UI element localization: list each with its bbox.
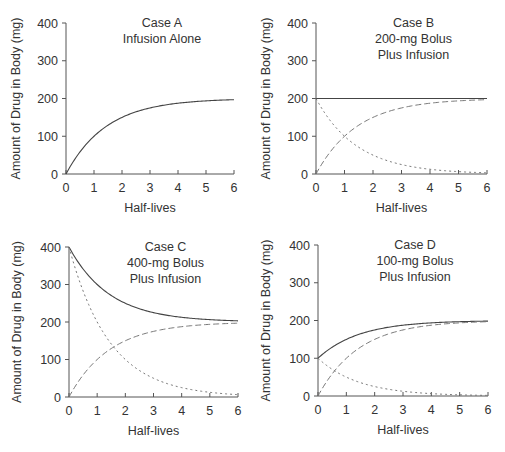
- y-tick-label: 300: [37, 54, 58, 68]
- x-tick-label: 6: [235, 404, 242, 418]
- y-axis-title: Amount of Drug in Body (mg): [259, 18, 273, 180]
- y-axis-title: Amount of Drug in Body (mg): [10, 241, 24, 403]
- total-curve: [66, 100, 234, 174]
- x-tick-label: 2: [370, 181, 377, 195]
- chart-panel-case-a: 01234560100200300400Half-livesAmount of …: [9, 16, 238, 215]
- panel-subtitle: 400-mg Bolus: [127, 256, 204, 270]
- x-tick-label: 1: [343, 403, 350, 417]
- x-axis-title: Half-lives: [377, 423, 428, 437]
- x-tick-label: 3: [400, 403, 407, 417]
- y-tick-label: 100: [287, 130, 308, 144]
- y-tick-label: 0: [303, 390, 310, 404]
- panel-title: Case B: [393, 16, 434, 30]
- x-tick-label: 5: [203, 181, 210, 195]
- x-tick-label: 1: [91, 181, 98, 195]
- pharmacokinetics-figure: 01234560100200300400Half-livesAmount of …: [0, 0, 505, 452]
- y-tick-label: 200: [289, 314, 310, 328]
- x-tick-label: 3: [398, 181, 405, 195]
- y-tick-label: 100: [289, 352, 310, 366]
- x-tick-label: 0: [315, 403, 322, 417]
- x-tick-label: 3: [147, 181, 154, 195]
- x-tick-label: 6: [484, 181, 491, 195]
- y-tick-label: 300: [289, 276, 310, 290]
- x-tick-label: 4: [175, 181, 182, 195]
- x-tick-label: 2: [122, 404, 129, 418]
- y-tick-label: 400: [40, 241, 61, 255]
- infusion-curve: [318, 322, 488, 396]
- y-tick-label: 100: [40, 353, 61, 367]
- panel-subtitle: Plus Infusion: [378, 48, 450, 62]
- chart-panel-case-c: 01234560100200300400Half-livesAmount of …: [10, 240, 242, 438]
- x-axis-title: Half-lives: [128, 424, 179, 438]
- panel-subtitle: 200-mg Bolus: [375, 32, 452, 46]
- x-tick-label: 5: [206, 404, 213, 418]
- infusion-curve: [69, 323, 238, 397]
- x-tick-label: 5: [455, 181, 462, 195]
- chart-panel-case-d: 01234560100200300400Half-livesAmount of …: [259, 238, 492, 437]
- panel-title: Case C: [145, 240, 187, 254]
- y-tick-label: 400: [37, 17, 58, 31]
- panel-subtitle: Plus Infusion: [379, 270, 451, 284]
- panel-subtitle: 100-mg Bolus: [376, 254, 453, 268]
- x-tick-label: 1: [341, 181, 348, 195]
- y-tick-label: 200: [37, 92, 58, 106]
- x-axis-title: Half-lives: [376, 201, 427, 215]
- x-tick-label: 0: [66, 404, 73, 418]
- panel-title: Case A: [142, 16, 183, 30]
- x-tick-label: 6: [231, 181, 238, 195]
- x-tick-label: 6: [485, 403, 492, 417]
- x-tick-label: 3: [150, 404, 157, 418]
- y-tick-label: 0: [51, 168, 58, 182]
- panel-subtitle: Plus Infusion: [130, 272, 202, 286]
- y-tick-label: 100: [37, 130, 58, 144]
- panel-title: Case D: [394, 238, 436, 252]
- bolus-curve: [316, 99, 487, 173]
- y-tick-label: 400: [287, 17, 308, 31]
- x-tick-label: 4: [178, 404, 185, 418]
- y-axis-title: Amount of Drug in Body (mg): [259, 240, 273, 402]
- x-tick-label: 2: [371, 403, 378, 417]
- x-tick-label: 0: [313, 181, 320, 195]
- x-tick-label: 1: [94, 404, 101, 418]
- y-tick-label: 0: [54, 391, 61, 405]
- y-tick-label: 200: [40, 316, 61, 330]
- y-axis-title: Amount of Drug in Body (mg): [9, 18, 23, 180]
- total-curve: [318, 321, 488, 358]
- y-tick-label: 300: [40, 278, 61, 292]
- y-tick-label: 300: [287, 54, 308, 68]
- x-tick-label: 4: [428, 403, 435, 417]
- x-axis-title: Half-lives: [124, 201, 175, 215]
- y-tick-label: 200: [287, 92, 308, 106]
- y-tick-label: 0: [301, 168, 308, 182]
- bolus-curve: [318, 358, 488, 395]
- x-tick-label: 4: [427, 181, 434, 195]
- chart-panel-case-b: 01234560100200300400Half-livesAmount of …: [259, 16, 491, 215]
- y-tick-label: 400: [289, 239, 310, 253]
- panel-subtitle: Infusion Alone: [123, 32, 202, 46]
- infusion-curve: [316, 100, 487, 174]
- x-tick-label: 0: [63, 181, 70, 195]
- x-tick-label: 2: [119, 181, 126, 195]
- x-tick-label: 5: [456, 403, 463, 417]
